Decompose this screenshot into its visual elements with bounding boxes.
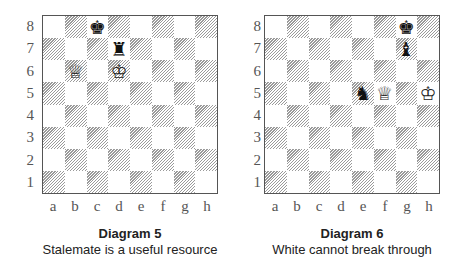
diagram-caption: Stalemate is a useful resource [22,242,238,257]
square-g1 [174,171,196,193]
square-h6 [195,60,217,82]
diagram-6: 8 7 6 5 4 3 2 1 ♚♝♞♕♔ a b c d e f g h Di… [229,0,458,265]
rank-label: 5 [0,82,34,104]
square-d2 [330,149,352,171]
diagram-caption: White cannot break through [244,242,458,257]
square-f2 [374,149,396,171]
square-e4 [352,105,374,127]
white-king-icon: ♔ [420,84,437,103]
rank-label: 4 [227,104,261,126]
square-b5 [65,82,87,104]
file-labels: a b c d e f g h [264,198,440,216]
square-c7 [309,38,331,60]
square-d6: ♔ [108,60,130,82]
file-label: d [108,198,130,216]
square-c6 [87,60,109,82]
square-c2 [309,149,331,171]
square-g5 [174,82,196,104]
square-h1 [417,171,439,193]
square-c5 [309,82,331,104]
square-h2 [195,149,217,171]
square-h4 [417,105,439,127]
square-h5 [195,82,217,104]
square-d7: ♜ [108,38,130,60]
square-g4 [174,105,196,127]
square-a8 [265,16,287,38]
file-label: h [196,198,218,216]
square-f7 [152,38,174,60]
white-queen-icon: ♕ [67,62,84,81]
square-f8 [152,16,174,38]
square-c3 [87,127,109,149]
square-b5 [287,82,309,104]
rank-labels: 8 7 6 5 4 3 2 1 [227,15,261,193]
rank-label: 4 [0,104,34,126]
square-e1 [352,171,374,193]
square-g4 [396,105,418,127]
white-queen-icon: ♕ [376,84,393,103]
square-d3 [108,127,130,149]
square-e3 [352,127,374,149]
square-f8 [374,16,396,38]
square-d1 [108,171,130,193]
file-label: c [86,198,108,216]
square-e8 [352,16,374,38]
square-e2 [352,149,374,171]
square-a7 [43,38,65,60]
square-h4 [195,105,217,127]
square-h1 [195,171,217,193]
square-h7 [417,38,439,60]
file-label: f [152,198,174,216]
square-a7 [265,38,287,60]
square-e6 [130,60,152,82]
square-c2 [87,149,109,171]
file-label: e [130,198,152,216]
square-e3 [130,127,152,149]
square-b1 [287,171,309,193]
square-a5 [265,82,287,104]
rank-labels: 8 7 6 5 4 3 2 1 [0,15,34,193]
square-c8: ♚ [87,16,109,38]
file-label: e [352,198,374,216]
square-a3 [43,127,65,149]
square-a5 [43,82,65,104]
square-b8 [287,16,309,38]
square-a8 [43,16,65,38]
square-b3 [65,127,87,149]
square-d7 [330,38,352,60]
rank-label: 8 [227,15,261,37]
file-label: h [418,198,440,216]
square-e2 [130,149,152,171]
square-f1 [374,171,396,193]
square-d6 [330,60,352,82]
black-rook-icon: ♜ [111,40,128,59]
square-d2 [108,149,130,171]
square-a3 [265,127,287,149]
square-e6 [352,60,374,82]
square-e1 [130,171,152,193]
square-b8 [65,16,87,38]
square-h5: ♔ [417,82,439,104]
rank-label: 2 [0,149,34,171]
file-label: g [174,198,196,216]
rank-label: 1 [0,171,34,193]
rank-label: 7 [0,37,34,59]
square-b6 [287,60,309,82]
square-g3 [174,127,196,149]
square-f2 [152,149,174,171]
square-g2 [396,149,418,171]
square-a6 [265,60,287,82]
square-c1 [309,171,331,193]
square-b7 [287,38,309,60]
square-e7 [130,38,152,60]
square-h6 [417,60,439,82]
black-king-icon: ♚ [89,18,106,37]
square-b4 [287,105,309,127]
square-e5: ♞ [352,82,374,104]
diagram-5: 8 7 6 5 4 3 2 1 ♚♜♕♔ a b c d e f g h Dia… [0,0,229,265]
square-b1 [65,171,87,193]
chess-board: ♚♜♕♔ [42,15,218,194]
rank-label: 7 [227,37,261,59]
square-c4 [87,105,109,127]
square-d5 [108,82,130,104]
